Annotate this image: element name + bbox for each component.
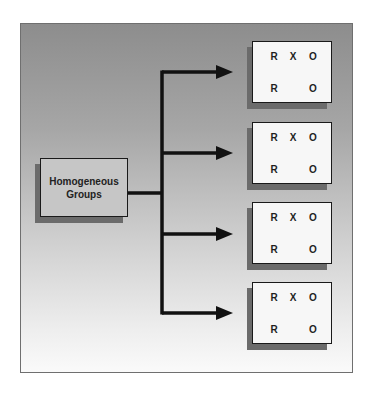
symbol-o: O	[307, 164, 319, 175]
branch-arrow-1	[162, 65, 233, 79]
symbol-o: O	[307, 212, 319, 223]
symbol-r: R	[268, 324, 280, 335]
arrowhead-icon	[216, 146, 233, 160]
symbol-x: X	[287, 51, 299, 62]
symbol-r: R	[268, 51, 280, 62]
group-box-4: R X O R O	[252, 282, 332, 344]
arrowhead-icon	[216, 65, 233, 79]
symbol-r: R	[268, 132, 280, 143]
symbol-r: R	[268, 164, 280, 175]
symbol-x: X	[287, 292, 299, 303]
branch-arrow-4	[162, 306, 233, 320]
arrowhead-icon	[216, 227, 233, 241]
symbol-x: X	[287, 212, 299, 223]
arrowhead-icon	[216, 306, 233, 320]
branch-arrow-2	[162, 146, 233, 160]
group-box-1: R X O R O	[252, 41, 332, 103]
symbol-o: O	[307, 324, 319, 335]
branch-arrow-3	[162, 227, 233, 241]
symbol-r: R	[268, 83, 280, 94]
symbol-o: O	[307, 132, 319, 143]
symbol-o: O	[307, 292, 319, 303]
symbol-o: O	[307, 244, 319, 255]
group-box-2: R X O R O	[252, 122, 332, 184]
symbol-x: X	[287, 132, 299, 143]
symbol-r: R	[268, 244, 280, 255]
symbol-o: O	[307, 51, 319, 62]
symbol-r: R	[268, 212, 280, 223]
symbol-r: R	[268, 292, 280, 303]
symbol-o: O	[307, 83, 319, 94]
group-box-3: R X O R O	[252, 202, 332, 264]
